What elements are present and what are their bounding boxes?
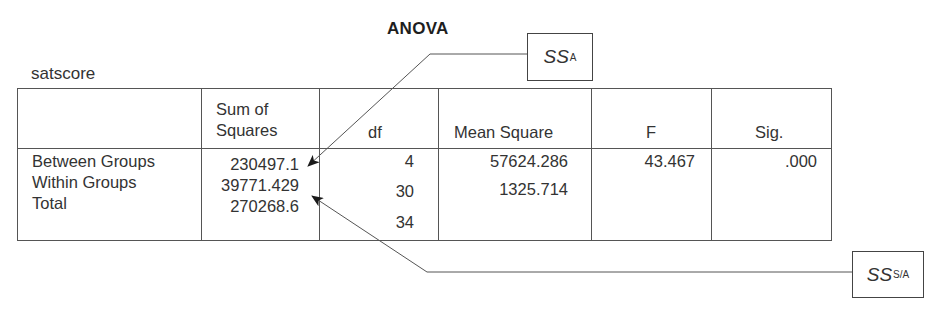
callout-ss-a-sub: A: [570, 52, 577, 63]
callout-leader-lines: [0, 0, 939, 311]
callout-ss-sa-main: SS: [867, 264, 892, 286]
ss-sa-leader: [312, 196, 852, 272]
ss-a-leader: [308, 54, 527, 166]
callout-ss-a-main: SS: [543, 46, 568, 68]
callout-ss-sa: SSS/A: [852, 251, 924, 298]
callout-ss-a: SSA: [527, 33, 593, 81]
callout-ss-sa-sub: S/A: [893, 269, 909, 280]
